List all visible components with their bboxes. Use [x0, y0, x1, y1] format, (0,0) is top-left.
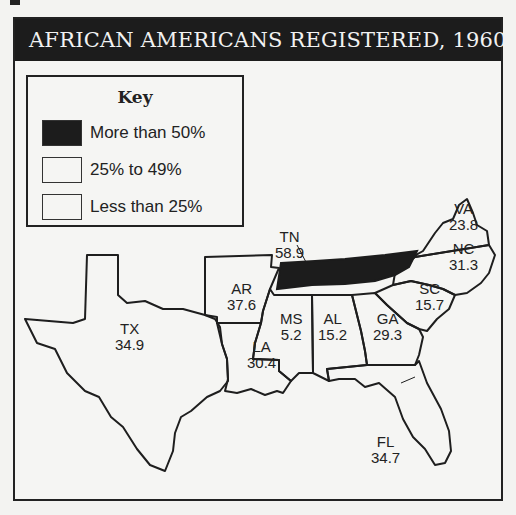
state-label-sc: SC 15.7	[415, 281, 444, 313]
state-label-fl: FL 34.7	[371, 434, 400, 466]
state-value: 15.2	[318, 327, 347, 343]
state-abbr: AL	[318, 311, 347, 327]
key-title: Key	[28, 87, 242, 107]
key-swatch-light	[42, 157, 82, 183]
state-label-nc: NC 31.3	[449, 241, 478, 273]
key-item-more-than-50: More than 50%	[42, 119, 205, 147]
state-label-al: AL 15.2	[318, 311, 347, 343]
state-abbr: GA	[373, 311, 402, 327]
state-value: 5.2	[280, 327, 303, 343]
state-label-ga: GA 29.3	[373, 311, 402, 343]
state-abbr: SC	[415, 281, 444, 297]
state-abbr: AR	[227, 281, 256, 297]
state-value: 30.4	[247, 355, 276, 371]
key-label: Less than 25%	[90, 197, 202, 217]
state-tx	[25, 255, 228, 471]
key-label: More than 50%	[90, 123, 205, 143]
corner-mark	[10, 0, 20, 5]
state-label-ar: AR 37.6	[227, 281, 256, 313]
key-item-25-to-49: 25% to 49%	[42, 156, 182, 184]
state-label-la: LA 30.4	[247, 339, 276, 371]
state-label-va: VA 23.8	[449, 201, 478, 233]
key-swatch-dark	[42, 120, 82, 146]
state-abbr: FL	[371, 434, 400, 450]
state-label-ms: MS 5.2	[280, 311, 303, 343]
map-key: Key More than 50% 25% to 49% Less than 2…	[26, 75, 244, 227]
state-abbr: MS	[280, 311, 303, 327]
key-label: 25% to 49%	[90, 160, 182, 180]
state-value: 34.9	[115, 337, 144, 353]
state-value: 15.7	[415, 297, 444, 313]
state-value: 37.6	[227, 297, 256, 313]
state-value: 23.8	[449, 217, 478, 233]
state-abbr: VA	[449, 201, 478, 217]
state-value: 58.9	[275, 245, 304, 261]
state-value: 29.3	[373, 327, 402, 343]
key-swatch-light	[42, 194, 82, 220]
state-abbr: LA	[247, 339, 276, 355]
state-label-tx: TX 34.9	[115, 321, 144, 353]
state-abbr: TN	[275, 229, 304, 245]
state-label-tn: TN 58.9	[275, 229, 304, 261]
state-abbr: NC	[449, 241, 478, 257]
map-frame: AFRICAN AMERICANS REGISTERED, 1960	[13, 17, 503, 501]
state-value: 34.7	[371, 450, 400, 466]
key-item-less-than-25: Less than 25%	[42, 193, 202, 221]
state-abbr: TX	[115, 321, 144, 337]
state-value: 31.3	[449, 257, 478, 273]
